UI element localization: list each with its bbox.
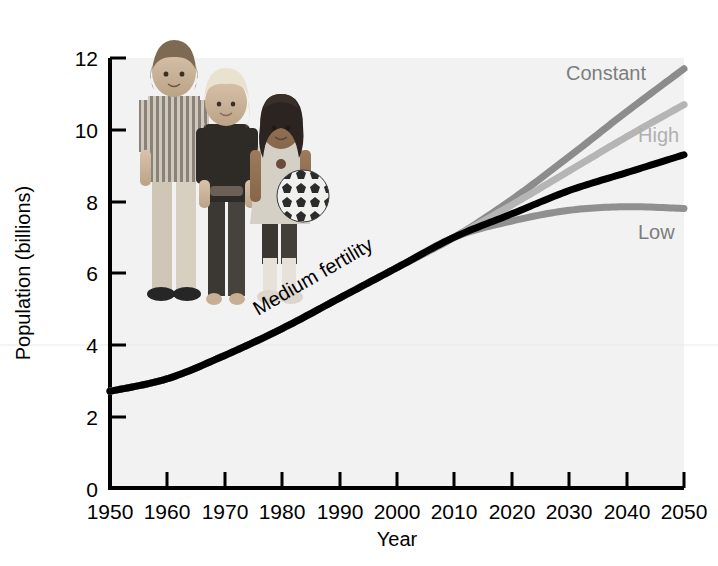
- y-axis-tick-labels: 12 10 8 6 4 2 0: [75, 47, 99, 501]
- y-tick-label: 6: [86, 262, 98, 285]
- x-tick-label: 1990: [317, 500, 364, 523]
- x-axis-tick-labels: 1950 1960 1970 1980 1990 2000 2010 2020 …: [87, 500, 708, 523]
- x-tick-label: 2040: [604, 500, 651, 523]
- x-tick-label: 2010: [431, 500, 478, 523]
- y-tick-label: 0: [86, 478, 98, 501]
- y-tick-label: 2: [86, 406, 98, 429]
- x-tick-label: 2050: [661, 500, 708, 523]
- population-projection-chart: 12 10 8 6 4 2 0 Population (billions) 1: [0, 0, 718, 566]
- y-axis-title: Population (billions): [12, 186, 34, 361]
- x-tick-label: 1960: [144, 500, 191, 523]
- x-axis-title: Year: [377, 528, 418, 550]
- x-tick-label: 2020: [489, 500, 536, 523]
- x-tick-label: 1950: [87, 500, 134, 523]
- x-tick-label: 1980: [259, 500, 306, 523]
- x-tick-label: 1970: [202, 500, 249, 523]
- y-tick-label: 12: [75, 47, 98, 70]
- series-label-constant: Constant: [566, 62, 646, 84]
- y-tick-label: 10: [75, 119, 98, 142]
- series-label-high: High: [638, 124, 679, 146]
- y-tick-label: 4: [86, 334, 98, 357]
- series-label-low: Low: [638, 221, 675, 243]
- y-tick-label: 8: [86, 191, 98, 214]
- x-tick-label: 2030: [546, 500, 593, 523]
- population-projection-figure: 12 10 8 6 4 2 0 Population (billions) 1: [0, 0, 718, 566]
- x-tick-label: 2000: [374, 500, 421, 523]
